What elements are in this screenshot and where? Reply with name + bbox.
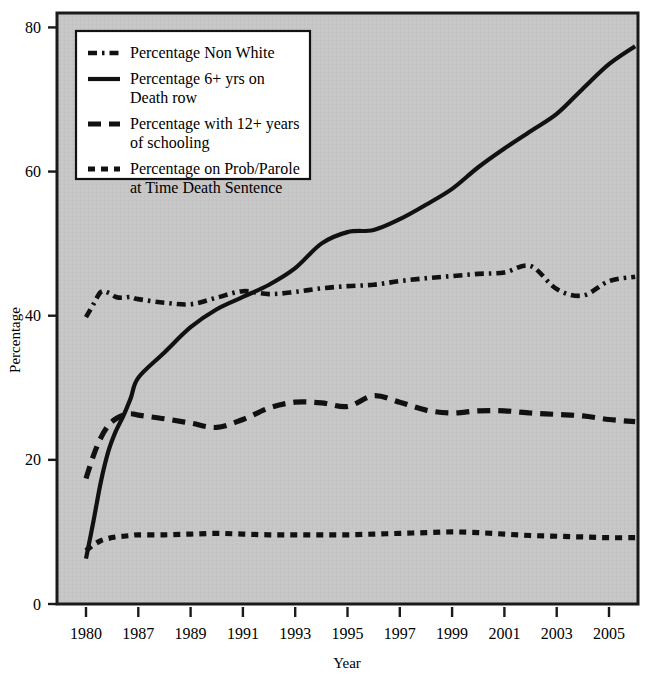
x-tick-label: 1999 <box>436 625 468 642</box>
chart-legend: Percentage Non WhitePercentage 6+ yrs on… <box>76 31 310 196</box>
y-tick-label: 20 <box>25 451 41 468</box>
legend-label-3: at Time Death Sentence <box>130 179 282 196</box>
percentage-trends-line-chart: 020406080 198019871989199119931995199719… <box>0 0 652 688</box>
legend-label-2: of schooling <box>130 134 210 152</box>
legend-label-2: Percentage with 12+ years <box>130 115 299 133</box>
x-tick-label: 1987 <box>122 625 154 642</box>
chart-figure: 020406080 198019871989199119931995199719… <box>0 0 652 688</box>
y-tick-label: 60 <box>25 163 41 180</box>
y-tick-label: 40 <box>25 307 41 324</box>
x-tick-label: 2005 <box>593 625 625 642</box>
legend-label-3: Percentage on Prob/Parole <box>130 160 300 178</box>
y-tick-label: 80 <box>25 19 41 36</box>
x-axis-title: Year <box>333 655 361 671</box>
x-tick-label: 1993 <box>279 625 311 642</box>
legend-label-0: Percentage Non White <box>130 44 275 62</box>
legend-label-1: Percentage 6+ yrs on <box>130 70 265 88</box>
x-tick-label: 1980 <box>70 625 102 642</box>
y-tick-label: 0 <box>33 596 41 613</box>
x-tick-label: 2001 <box>488 625 520 642</box>
x-tick-label: 2003 <box>541 625 573 642</box>
y-axis-title: Percentage <box>7 307 23 373</box>
x-tick-label: 1995 <box>332 625 364 642</box>
x-tick-label: 1997 <box>384 625 416 642</box>
x-tick-label: 1989 <box>175 625 207 642</box>
legend-label-1: Death row <box>130 89 198 106</box>
x-tick-label: 1991 <box>227 625 259 642</box>
